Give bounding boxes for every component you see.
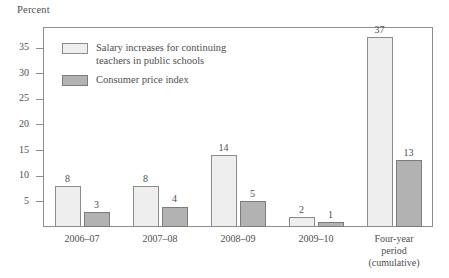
bar-value-label: 5 xyxy=(234,188,272,199)
legend-swatch xyxy=(62,75,88,86)
bar-value-label: 3 xyxy=(78,199,116,210)
bar-value-label: 1 xyxy=(312,209,350,220)
y-tick-mark xyxy=(36,73,43,74)
bar-value-label: 8 xyxy=(127,173,165,184)
legend-label: Salary increases for continuingteachers … xyxy=(96,42,226,67)
y-tick-label: 5 xyxy=(5,195,29,206)
x-category-label-line: (cumulative) xyxy=(334,257,449,269)
bar xyxy=(240,201,266,227)
y-tick-label: 10 xyxy=(5,169,29,180)
legend-label-line: teachers in public schools xyxy=(96,55,226,68)
bar xyxy=(367,37,393,227)
y-tick-label: 30 xyxy=(5,67,29,78)
bar-value-label: 4 xyxy=(156,193,194,204)
bar-value-label: 37 xyxy=(361,24,399,35)
bar-value-label: 13 xyxy=(390,147,428,158)
y-tick-mark xyxy=(36,124,43,125)
y-axis-title: Percent xyxy=(17,4,50,15)
y-tick-label: 20 xyxy=(5,118,29,129)
y-tick-label: 15 xyxy=(5,144,29,155)
y-tick-mark xyxy=(36,99,43,100)
bar xyxy=(162,207,188,228)
bar xyxy=(396,160,422,227)
bar xyxy=(84,212,110,227)
y-tick-label: 35 xyxy=(5,41,29,52)
bar-value-label: 14 xyxy=(205,142,243,153)
legend-label: Consumer price index xyxy=(96,74,189,87)
y-tick-mark xyxy=(36,150,43,151)
x-category-label-line: Four-year xyxy=(334,233,449,245)
legend-label-line: Salary increases for continuing xyxy=(96,42,226,55)
bar xyxy=(318,222,344,227)
legend-item: Salary increases for continuingteachers … xyxy=(62,42,226,67)
y-tick-label: 25 xyxy=(5,92,29,103)
y-tick-mark xyxy=(36,48,43,49)
y-tick-mark xyxy=(36,201,43,202)
x-category-label-line: period xyxy=(334,245,449,257)
bar xyxy=(133,186,159,227)
legend-label-line: Consumer price index xyxy=(96,74,189,87)
bar-value-label: 8 xyxy=(49,173,87,184)
y-tick-mark xyxy=(36,176,43,177)
chart-figure: Percent 5101520253035 8384145213713 2006… xyxy=(0,0,449,278)
x-category-label: Four-yearperiod(cumulative) xyxy=(334,233,449,269)
legend: Salary increases for continuingteachers … xyxy=(62,42,226,94)
legend-swatch xyxy=(62,43,88,54)
legend-item: Consumer price index xyxy=(62,74,226,87)
